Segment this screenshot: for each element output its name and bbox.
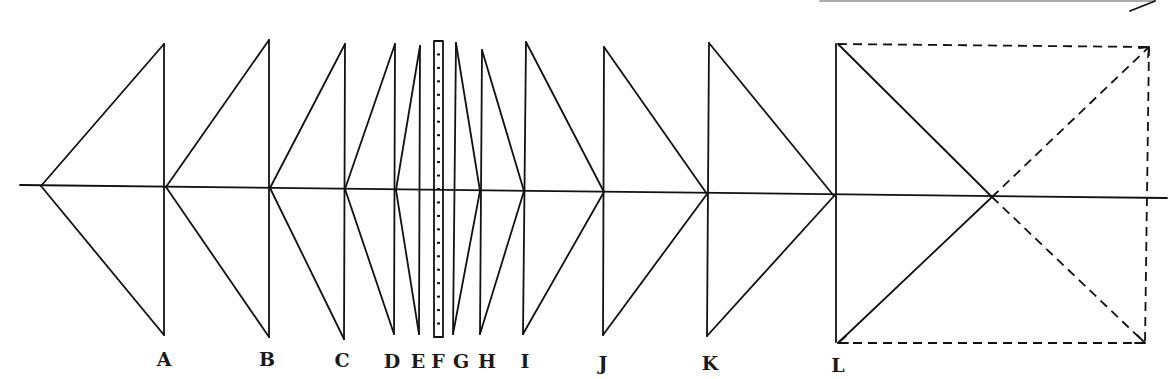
- scale-tick: [437, 161, 440, 163]
- arrowhead-icon: [1135, 335, 1145, 343]
- station-label-d: D: [384, 350, 400, 372]
- ray-lower: [603, 194, 707, 335]
- scale-tick: [437, 134, 440, 136]
- station-label-k: K: [702, 352, 720, 374]
- scale-tick: [437, 67, 440, 69]
- ray-lower: [480, 191, 524, 334]
- station-label-e: E: [411, 350, 425, 372]
- lens-line-d: [394, 44, 395, 334]
- ray-upper: [456, 43, 480, 191]
- ray-solid-up: [838, 197, 992, 343]
- ray-upper: [526, 42, 604, 192]
- station-labels: ABCDEFGHIJKL: [156, 348, 845, 376]
- scale-tick: [437, 121, 440, 123]
- lens-line-g: [453, 43, 456, 334]
- axis-line: [20, 185, 1167, 198]
- station-label-l: L: [831, 354, 844, 376]
- scale-tick: [437, 53, 440, 55]
- ray-solid-down: [838, 44, 992, 197]
- optical-axis: [20, 185, 1167, 198]
- ray-upper: [396, 46, 420, 190]
- scale-tick: [437, 107, 440, 109]
- scale-tick: [437, 148, 440, 150]
- ray-upper: [709, 43, 834, 196]
- ray-lower: [396, 190, 419, 334]
- station-label-i: I: [521, 350, 530, 372]
- scale-tick: [437, 175, 440, 177]
- scale-tick: [437, 201, 440, 203]
- scale-tick: [437, 242, 440, 244]
- scale-tick: [437, 94, 440, 96]
- station-label-f: F: [431, 350, 445, 372]
- scale-tick: [437, 188, 440, 190]
- box-top: [838, 44, 1149, 47]
- scale-tick: [437, 215, 440, 217]
- top-arrow-icon: [820, 1, 1155, 11]
- ray-lower: [707, 196, 834, 336]
- ray-upper: [604, 47, 707, 194]
- ray-lower: [453, 191, 480, 334]
- ray-dashed-down: [992, 197, 1145, 343]
- scale-tick: [437, 309, 440, 311]
- scale-tick: [437, 80, 440, 82]
- ray-lower: [345, 189, 394, 334]
- ray-lower: [166, 187, 269, 337]
- station-label-g: G: [453, 350, 469, 372]
- scale-tick: [437, 282, 440, 284]
- lens-line-k: [707, 43, 709, 336]
- box-right: [1145, 47, 1149, 343]
- ray-lower: [41, 186, 164, 335]
- dashed-projection-box: [838, 44, 1149, 343]
- scale-tick: [437, 323, 440, 325]
- scale-tick: [437, 269, 440, 271]
- ray-upper: [41, 44, 164, 186]
- optical-diagram: ABCDEFGHIJKL: [0, 0, 1176, 379]
- ray-lower: [523, 192, 604, 334]
- station-label-b: B: [259, 348, 275, 370]
- ray-upper: [345, 44, 395, 189]
- station-label-c: C: [334, 349, 349, 371]
- station-label-h: H: [478, 350, 496, 372]
- ray-upper: [166, 40, 269, 187]
- ray-upper: [270, 44, 345, 188]
- station-label-a: A: [156, 348, 172, 370]
- lens-line-e: [419, 46, 420, 334]
- scale-tick: [437, 255, 440, 257]
- ray-lower: [270, 188, 344, 339]
- scale-tick: [437, 228, 440, 230]
- ray-upper: [482, 50, 524, 191]
- scale-tick: [437, 296, 440, 298]
- ray-dashed-up: [992, 47, 1149, 197]
- top-arrow-head: [1130, 1, 1155, 11]
- station-label-j: J: [597, 352, 608, 374]
- lens-line-c: [344, 44, 345, 339]
